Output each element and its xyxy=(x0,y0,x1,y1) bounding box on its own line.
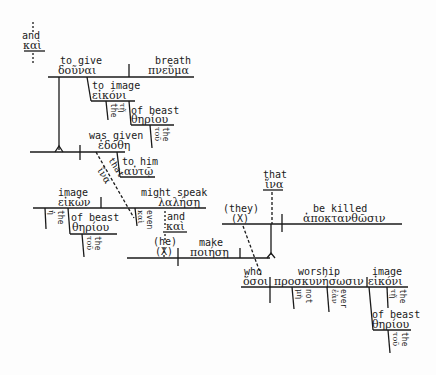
image-obj-gr: εἰκόνι xyxy=(368,276,403,287)
the5-gr: τῇ xyxy=(389,289,398,298)
even-gr: καὶ xyxy=(136,210,145,224)
he-gr: (X) xyxy=(155,246,173,257)
of-beast2-gr: θηρίου xyxy=(72,222,109,233)
who-gr: ὅσοι xyxy=(243,276,268,287)
and2-gr: καὶ xyxy=(166,221,185,232)
the5-en: the xyxy=(398,289,407,303)
the4-en: the xyxy=(93,236,102,250)
image-subj-gr: εἰκὼν xyxy=(58,197,91,208)
worship-gr: προσκυνήσωσιν xyxy=(274,276,364,287)
they-gr: (X) xyxy=(231,213,249,224)
of-beast1-gr: θηρίου xyxy=(131,114,168,125)
ever-gr: ἐὰν xyxy=(330,289,339,304)
ever-en: ever xyxy=(339,289,348,308)
the1-gr: τῇ xyxy=(118,103,127,112)
to-image-gr: εἰκόνι xyxy=(92,90,127,101)
not-en: not xyxy=(304,289,313,303)
the6-gr: τοῦ xyxy=(391,332,400,346)
be-killed-gr: ἀποκτανθῶσιν xyxy=(303,213,385,224)
to-him-gr: αὐτῷ xyxy=(124,166,153,177)
breath-gr: πνεῦμα xyxy=(148,65,189,76)
that2-gr: ἵνα xyxy=(265,179,283,190)
the1-en: the xyxy=(109,103,118,117)
the3-gr: ἡ xyxy=(47,210,56,215)
sentence-diagram: and καὶ to give δοῦναι breath πνεῦμα to … xyxy=(0,0,436,375)
even-en: even xyxy=(145,210,154,229)
might-speak-gr: λαλήσῃ xyxy=(158,197,200,208)
was-given-gr: ἐδόθη xyxy=(98,140,130,151)
the6-en: the xyxy=(400,332,409,346)
and-gr: καὶ xyxy=(23,40,42,51)
make-gr: ποιήσῃ xyxy=(190,247,229,258)
the3-en: the xyxy=(56,210,65,224)
to-give-gr: δοῦναι xyxy=(58,65,96,76)
not-gr: μὴ xyxy=(295,289,304,299)
the2-en: the xyxy=(161,127,170,141)
of-beast3-gr: θηρίου xyxy=(372,319,409,330)
